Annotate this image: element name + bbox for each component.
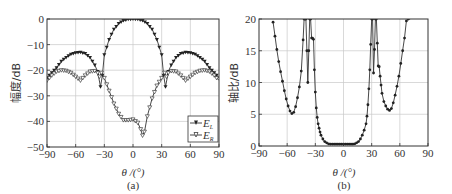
- data-point: [150, 28, 154, 32]
- data-point: [372, 72, 375, 75]
- data-point: [93, 64, 97, 68]
- x-tick-label: −30: [96, 148, 114, 160]
- data-point: [378, 65, 381, 68]
- data-point: [279, 70, 282, 73]
- data-point: [275, 48, 278, 51]
- y-tick-label: −40: [27, 115, 45, 127]
- x-tick-label: −60: [279, 147, 297, 159]
- data-point: [394, 94, 397, 97]
- data-point: [363, 129, 366, 132]
- data-point: [287, 105, 290, 108]
- data-point: [409, 0, 412, 1]
- data-point: [381, 92, 384, 95]
- data-point: [112, 102, 116, 106]
- data-point: [139, 128, 143, 132]
- data-point: [403, 37, 406, 40]
- data-point: [392, 101, 395, 104]
- figure: −90−60−3003060900−10−20−30−40−50 幅度/dB θ…: [0, 0, 452, 194]
- data-point: [376, 42, 379, 45]
- data-point: [157, 46, 161, 50]
- chart-b: −90−60−30030609005101520 轴比/dB θ /(°) (b…: [227, 0, 434, 192]
- data-point: [315, 107, 318, 110]
- chart-a-legend: EL ER: [188, 116, 218, 142]
- chart-a-panel-label: (a): [127, 179, 140, 192]
- x-tick-label: 0: [341, 147, 347, 159]
- data-point: [107, 89, 111, 93]
- data-point: [110, 96, 114, 100]
- x-tick-label: 30: [366, 147, 378, 159]
- x-tick-label: −30: [307, 147, 325, 159]
- data-point: [281, 80, 284, 83]
- data-point: [96, 71, 100, 75]
- chart-b-series: [272, 0, 412, 145]
- x-tick-label: −60: [67, 148, 85, 160]
- data-point: [114, 107, 118, 111]
- data-point: [368, 68, 371, 71]
- data-point: [379, 75, 382, 78]
- data-point: [141, 134, 145, 138]
- data-point: [320, 134, 323, 137]
- data-point: [359, 138, 362, 141]
- chart-b-ticks: −90−60−30030609005101520: [245, 13, 434, 159]
- x-tick-label: 90: [423, 147, 435, 159]
- y-tick-label: −30: [27, 90, 45, 102]
- data-point: [312, 38, 315, 41]
- data-point: [294, 105, 297, 108]
- data-point: [112, 28, 116, 32]
- x-tick-label: 0: [130, 148, 136, 160]
- data-point: [166, 71, 170, 75]
- data-point: [105, 83, 109, 87]
- data-point: [283, 89, 286, 92]
- data-point: [277, 60, 280, 63]
- data-point: [373, 48, 376, 51]
- data-point: [110, 33, 114, 37]
- x-tick-label: 60: [185, 148, 197, 160]
- data-point: [317, 122, 320, 125]
- data-point: [313, 68, 316, 71]
- y-tick-label: 5: [251, 108, 257, 120]
- y-tick-label: 20: [245, 13, 257, 25]
- data-point: [155, 38, 159, 42]
- data-point: [169, 64, 173, 68]
- data-point: [399, 62, 402, 65]
- data-point: [306, 81, 309, 84]
- data-point: [99, 85, 103, 89]
- series-axial-ratio: [272, 0, 412, 145]
- x-tick-label: 90: [214, 148, 226, 160]
- data-point: [321, 138, 324, 141]
- data-point: [384, 105, 387, 108]
- chart-a-ylabel: 幅度/dB: [9, 63, 23, 103]
- data-point: [148, 106, 152, 110]
- data-point: [98, 75, 102, 79]
- data-point: [361, 134, 364, 137]
- data-point: [150, 97, 154, 101]
- data-point: [314, 91, 317, 94]
- data-point: [369, 43, 372, 46]
- x-tick-label: 30: [156, 148, 168, 160]
- data-point: [164, 75, 168, 79]
- y-tick-label: 0: [39, 13, 45, 25]
- y-tick-label: −10: [27, 39, 45, 51]
- data-point: [285, 98, 288, 101]
- data-point: [366, 115, 369, 118]
- data-point: [397, 75, 400, 78]
- data-point: [318, 127, 321, 130]
- data-point: [78, 79, 82, 83]
- data-point: [367, 103, 370, 106]
- data-point: [272, 21, 275, 24]
- data-point: [142, 130, 146, 134]
- chart-b-panel-label: (b): [338, 179, 351, 192]
- data-point: [365, 122, 368, 125]
- data-point: [136, 121, 140, 125]
- data-point: [300, 70, 303, 73]
- series-e-l: [45, 18, 219, 89]
- data-point: [396, 85, 399, 88]
- data-point: [307, 49, 310, 52]
- data-point: [380, 84, 383, 87]
- data-point: [289, 110, 292, 113]
- y-tick-label: −50: [27, 141, 45, 153]
- data-point: [401, 49, 404, 52]
- chart-b-grid: [259, 19, 428, 146]
- chart-a: −90−60−3003060900−10−20−30−40−50 幅度/dB θ…: [9, 13, 225, 192]
- chart-b-xlabel: θ /(°): [333, 166, 356, 179]
